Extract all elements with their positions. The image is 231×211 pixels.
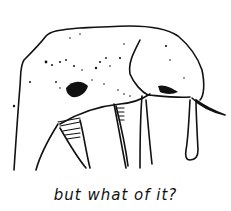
body-blotch [66, 82, 88, 97]
elephant-rear-leg-back [80, 120, 90, 168]
elephant-rear-leg [36, 124, 58, 170]
leg-hatching [58, 108, 124, 139]
elephant-front-leg-2-back [146, 100, 152, 164]
elephant-mouth-patch [158, 85, 178, 93]
elephant-front-leg-2 [140, 96, 142, 168]
elephant-front-leg-1 [114, 104, 126, 168]
elephant-front-leg-1-back [116, 106, 128, 166]
elephant-body-outline [14, 26, 204, 170]
elephant-trunk [186, 100, 198, 160]
elephant-drawing [0, 0, 231, 211]
caption: but what of it? [0, 186, 231, 204]
